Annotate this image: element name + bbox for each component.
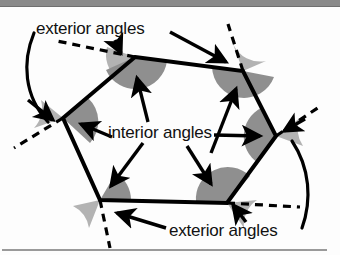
label-exterior-angles-top: exterior angles: [36, 20, 145, 37]
leader-ext-topright: [170, 32, 226, 62]
label-interior-angles: interior angles: [108, 124, 212, 141]
leader-ext-bottomleft: [117, 213, 166, 228]
label-exterior-angles-bottom: exterior angles: [169, 222, 278, 239]
diagram-canvas: exterior angles interior angles exterior…: [0, 0, 340, 255]
leader-int-topright: [211, 89, 236, 153]
leader-int-bottomleft: [111, 143, 143, 186]
leader-int-right: [214, 135, 260, 136]
bottom-border-rule: [2, 249, 327, 251]
leader-int-bottomright: [187, 146, 211, 184]
arc-right: [292, 141, 308, 228]
